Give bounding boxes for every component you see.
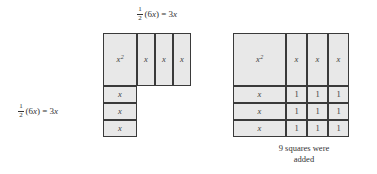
right-unit-tile-r2c3: 1 bbox=[328, 103, 349, 120]
tile-label: x bbox=[144, 55, 148, 64]
top-label-half-6x: 1 2 (6x) = 3x bbox=[137, 6, 177, 22]
right-top-x-tile-3: x bbox=[328, 33, 349, 86]
left-side-x-tile-1: x bbox=[103, 86, 137, 103]
right-unit-tile-r2c1: 1 bbox=[286, 103, 307, 120]
fraction-one-half-top: 1 2 bbox=[137, 6, 143, 22]
right-top-x-tile-2: x bbox=[307, 33, 328, 86]
top-expr-mid: ) = 3 bbox=[156, 9, 173, 19]
right-side-x-tile-1: x bbox=[233, 86, 286, 103]
caption-squares-added: 9 squares were added bbox=[258, 143, 350, 164]
fraction-denominator: 2 bbox=[138, 15, 142, 23]
tile-label: 1 bbox=[315, 90, 319, 99]
diagram-canvas: 1 2 (6x) = 3x 1 2 (6x) = 3x x2 x x x bbox=[0, 0, 377, 174]
top-expr-var2: x bbox=[173, 9, 177, 19]
left-side-x-tile-3: x bbox=[103, 120, 137, 137]
left-expr-var2: x bbox=[54, 106, 58, 116]
fraction-one-half-left: 1 2 bbox=[18, 103, 24, 119]
right-x-squared-tile: x2 bbox=[233, 33, 286, 86]
right-unit-tile-r1c1: 1 bbox=[286, 86, 307, 103]
left-expr-open: (6 bbox=[26, 106, 34, 116]
left-top-x-tile-3: x bbox=[173, 33, 191, 86]
right-unit-tile-r1c2: 1 bbox=[307, 86, 328, 103]
tile-label: x bbox=[295, 55, 299, 64]
left-top-x-tile-2: x bbox=[155, 33, 173, 86]
tile-label: 1 bbox=[294, 90, 298, 99]
tile-label: 1 bbox=[294, 107, 298, 116]
right-side-x-tile-2: x bbox=[233, 103, 286, 120]
tile-label: x bbox=[118, 124, 122, 133]
tile-label: x bbox=[180, 55, 184, 64]
top-expr-open: (6 bbox=[145, 9, 153, 19]
left-x-squared-base: x bbox=[117, 55, 121, 64]
tile-label: x bbox=[337, 55, 341, 64]
tile-label: 1 bbox=[336, 124, 340, 133]
tile-label: x bbox=[162, 55, 166, 64]
tile-label: 1 bbox=[336, 107, 340, 116]
fraction-numerator: 1 bbox=[138, 6, 142, 14]
tile-label: x bbox=[258, 90, 262, 99]
top-label-expression: (6x) = 3x bbox=[145, 10, 178, 19]
tile-label: x bbox=[118, 90, 122, 99]
right-unit-tile-r1c3: 1 bbox=[328, 86, 349, 103]
left-top-x-tile-1: x bbox=[137, 33, 155, 86]
left-x-squared-tile: x2 bbox=[103, 33, 137, 86]
tile-label: 1 bbox=[336, 90, 340, 99]
tile-label: 1 bbox=[294, 124, 298, 133]
tile-label: x bbox=[258, 124, 262, 133]
right-side-x-tile-3: x bbox=[233, 120, 286, 137]
tile-label: 1 bbox=[315, 107, 319, 116]
right-unit-tile-r2c2: 1 bbox=[307, 103, 328, 120]
left-expr-mid: ) = 3 bbox=[37, 106, 54, 116]
left-label-half-6x: 1 2 (6x) = 3x bbox=[18, 103, 58, 119]
tile-label: x bbox=[316, 55, 320, 64]
fraction-numerator: 1 bbox=[19, 103, 23, 111]
tile-label: x bbox=[258, 107, 262, 116]
right-top-x-tile-1: x bbox=[286, 33, 307, 86]
fraction-denominator: 2 bbox=[19, 112, 23, 120]
right-unit-tile-r3c2: 1 bbox=[307, 120, 328, 137]
left-side-x-tile-2: x bbox=[103, 103, 137, 120]
right-unit-tile-r3c3: 1 bbox=[328, 120, 349, 137]
tile-label: x bbox=[118, 107, 122, 116]
left-label-expression: (6x) = 3x bbox=[26, 107, 59, 116]
tile-label: 1 bbox=[315, 124, 319, 133]
right-unit-tile-r3c1: 1 bbox=[286, 120, 307, 137]
